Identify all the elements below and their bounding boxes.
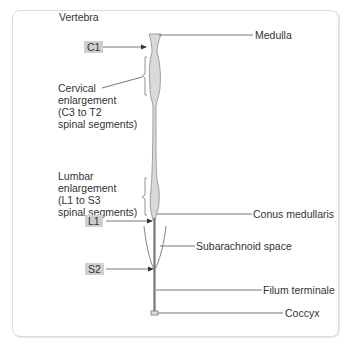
s2-badge: S2 bbox=[85, 263, 104, 275]
spinal-cord-illustration bbox=[0, 0, 351, 351]
lumbar-label-line2: enlargement bbox=[58, 182, 116, 195]
subarachnoid-right-curve bbox=[155, 226, 166, 269]
l1-arrowhead bbox=[147, 219, 153, 224]
medulla-label: Medulla bbox=[255, 29, 292, 42]
c1-arrowhead bbox=[141, 45, 147, 50]
c1-badge: C1 bbox=[84, 41, 103, 53]
coccyx-label: Coccyx bbox=[285, 307, 319, 320]
cervical-leader bbox=[102, 77, 142, 88]
subarachnoid-space-label: Subarachnoid space bbox=[196, 240, 292, 253]
subarachnoid-left-curve bbox=[144, 226, 154, 269]
cervical-bracket bbox=[142, 57, 147, 95]
cervical-label-line4: spinal segments) bbox=[58, 118, 137, 131]
l1-badge: L1 bbox=[85, 215, 103, 227]
coccyx-block bbox=[151, 311, 158, 315]
lumbar-label-line3: (L1 to S3 bbox=[58, 194, 101, 207]
spinal-cord-shape bbox=[149, 34, 161, 220]
lumbar-bracket bbox=[142, 178, 147, 215]
cervical-label-line1: Cervical bbox=[58, 82, 96, 95]
conus-medullaris-label: Conus medullaris bbox=[253, 208, 334, 221]
cervical-label-line3: (C3 to T2 bbox=[58, 106, 102, 119]
lumbar-label-line1: Lumbar bbox=[58, 170, 94, 183]
cervical-label-line2: enlargement bbox=[58, 94, 116, 107]
filum-terminale-label: Filum terminale bbox=[263, 284, 335, 297]
vertebra-label: Vertebra bbox=[59, 11, 99, 24]
